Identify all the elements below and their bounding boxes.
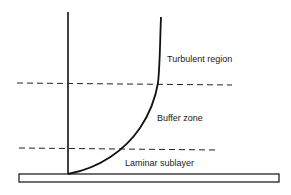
buffer-zone-label: Buffer zone [157,113,203,123]
upper-region-boundary [17,83,232,85]
wall-plate [19,174,279,182]
laminar-sublayer-label: Laminar sublayer [125,158,194,168]
boundary-layer-diagram: Turbulent region Buffer zone Laminar sub… [0,0,291,195]
turbulent-region-label: Turbulent region [167,54,232,64]
velocity-profile-curve [68,17,161,174]
